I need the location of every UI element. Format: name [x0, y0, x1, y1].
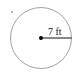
stray-dot — [11, 11, 13, 13]
radius-label: 7 ft — [48, 26, 62, 37]
circle-diagram: 7 ft — [0, 0, 73, 72]
center-point — [39, 36, 43, 40]
